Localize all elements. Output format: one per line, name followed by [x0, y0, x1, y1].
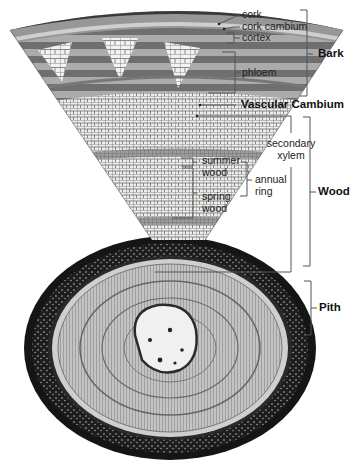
- label-pith: Pith: [319, 302, 341, 313]
- label-spring-wood-line1: spring: [202, 191, 231, 202]
- label-summer-wood-line1: summer: [202, 155, 240, 166]
- label-cortex: cortex: [242, 32, 271, 43]
- label-vascular-cambium: Vascular Cambium: [241, 99, 344, 110]
- label-annual-ring-line1: annual: [255, 174, 287, 185]
- label-summer-wood-line2: wood: [202, 167, 227, 178]
- label-secondary-xylem-line1: secondary: [259, 138, 323, 149]
- label-annual-ring-line2: ring: [255, 186, 273, 197]
- label-phloem: phloem: [242, 67, 276, 78]
- stem-disc: [24, 236, 316, 460]
- stem-cross-section-diagram: cork cork cambium cortex phloem Bark Vas…: [0, 0, 357, 464]
- label-cork: cork: [242, 9, 262, 20]
- sector-wedge: [0, 0, 357, 260]
- label-spring-wood-line2: wood: [202, 203, 227, 214]
- label-secondary-xylem-line2: xylem: [259, 150, 323, 161]
- diagram-artwork: [0, 0, 357, 464]
- label-bark: Bark: [318, 48, 344, 59]
- label-wood: Wood: [318, 186, 350, 197]
